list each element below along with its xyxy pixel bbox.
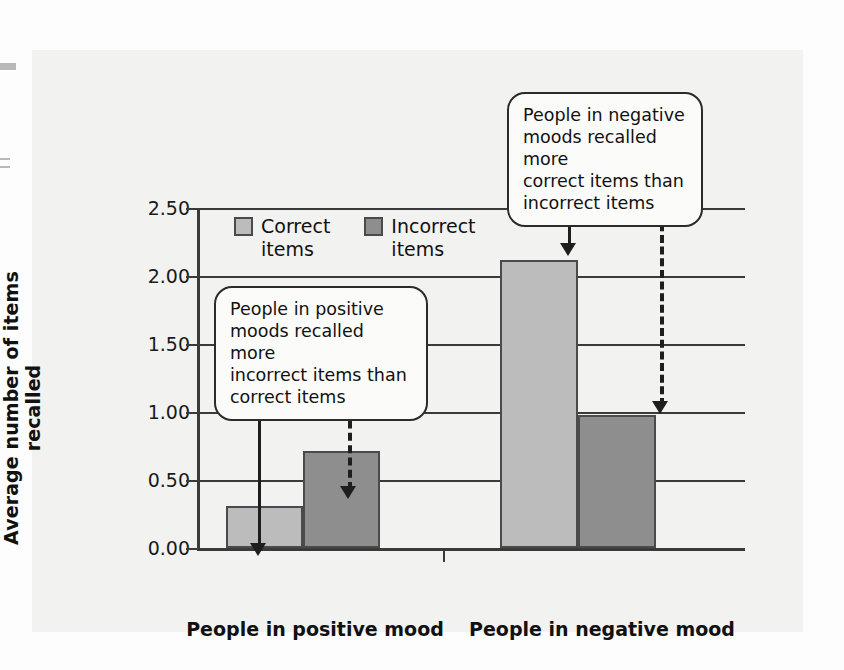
legend-item-incorrect-items[interactable]: Incorrect items (364, 215, 475, 261)
callout-arrowhead-positive-incorrect (340, 486, 356, 499)
x-tick-label-negative-mood: People in negative mood (452, 618, 752, 640)
callout-arrowhead-positive-correct (250, 543, 266, 556)
legend-swatch-correct-icon (234, 217, 253, 236)
x-axis-group-divider-tick (443, 549, 445, 562)
y-axis-tick (186, 276, 197, 278)
y-tick-label: 2.00 (120, 267, 190, 286)
bar-correct-negative-mood[interactable] (500, 260, 578, 548)
legend-label-incorrect-items: Incorrect items (391, 215, 475, 261)
y-axis-tick (186, 344, 197, 346)
callout-text-line1: People in negative (523, 105, 685, 125)
bar-incorrect-positive-mood[interactable] (303, 451, 380, 548)
y-axis-tick-labels: 2.50 2.00 1.50 1.00 0.50 0.00 (120, 208, 190, 550)
y-tick-label: 0.50 (120, 471, 190, 490)
callout-text-line3: correct items than (523, 171, 684, 191)
y-axis-tick (186, 548, 197, 550)
legend-label-line2: items (391, 238, 444, 260)
legend-label-line1: Incorrect (391, 215, 475, 237)
callout-text-line3: incorrect items than (230, 365, 407, 385)
chart-figure-panel: Average number of items recalled 2.50 2.… (32, 50, 803, 632)
y-axis-tick (186, 480, 197, 482)
legend-label-line1: Correct (261, 215, 330, 237)
y-axis-title-line2: recalled (22, 365, 44, 452)
bar-incorrect-negative-mood[interactable] (578, 415, 656, 548)
scanned-page: Average number of items recalled 2.50 2.… (0, 0, 844, 670)
x-tick-label-positive-mood: People in positive mood (180, 618, 450, 640)
gridline-0.50 (197, 480, 745, 482)
legend: Correct items Incorrect items (234, 215, 476, 261)
y-tick-label: 2.50 (120, 199, 190, 218)
scan-artifact-mark (0, 166, 10, 168)
callout-leader-line-negative-incorrect (660, 200, 664, 406)
y-axis-title: Average number of items recalled (0, 248, 45, 568)
legend-label-correct-items: Correct items (261, 215, 330, 261)
y-axis-title-line1: Average number of items (0, 271, 22, 545)
scan-artifact-mark (0, 63, 16, 70)
y-axis-line (197, 208, 200, 550)
callout-negative-mood: People in negative moods recalled more c… (507, 92, 703, 227)
legend-item-correct-items[interactable]: Correct items (234, 215, 330, 261)
bar-correct-positive-mood[interactable] (226, 506, 303, 548)
callout-text-line2: moods recalled more (230, 321, 364, 363)
y-axis-tick (186, 412, 197, 414)
y-tick-label: 1.00 (120, 403, 190, 422)
x-axis-baseline (197, 548, 745, 551)
y-tick-label: 1.50 (120, 335, 190, 354)
scan-artifact-mark (0, 158, 10, 160)
callout-text-line2: moods recalled more (523, 127, 657, 169)
callout-positive-mood: People in positive moods recalled more i… (214, 286, 428, 421)
legend-swatch-incorrect-icon (364, 217, 383, 236)
callout-arrowhead-negative-correct (560, 243, 576, 256)
legend-label-line2: items (261, 238, 314, 260)
y-tick-label: 0.00 (120, 539, 190, 558)
callout-arrowhead-negative-incorrect (652, 401, 668, 414)
callout-text-line4: correct items (230, 387, 346, 407)
callout-text-line4: incorrect items (523, 193, 654, 213)
callout-text-line1: People in positive (230, 299, 384, 319)
y-axis-tick (186, 208, 197, 210)
